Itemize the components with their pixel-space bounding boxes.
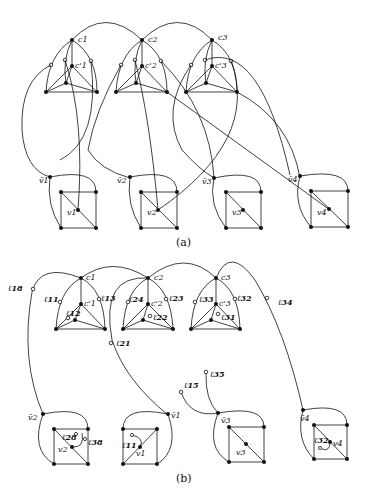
label-l11: ℓ11 — [44, 294, 59, 304]
label-l31: ℓ31 — [221, 312, 236, 322]
variable-gadget-1: v̄1 v1 — [39, 175, 98, 230]
label-b-v3: v3 — [236, 448, 246, 457]
variable-gadget-b3: v̄3 v3 — [213, 411, 266, 464]
variable-gadget-3: v̄3 v3 — [202, 175, 263, 230]
label-b-c3-prime: c'3 — [219, 299, 231, 308]
label-v1: v1 — [67, 208, 77, 217]
label-l34: ℓ34 — [278, 297, 293, 307]
label-l22: ℓ22 — [153, 312, 168, 322]
label-l23: ℓ23 — [169, 293, 184, 303]
label-c3-prime: c'3 — [215, 61, 227, 70]
label-v4-bar: v̄4 — [288, 175, 298, 184]
label-c3: c3 — [218, 33, 228, 42]
variable-gadget-b4: v̄4 v4 ℓ32 — [300, 408, 349, 461]
label-v3-bar: v̄3 — [202, 177, 212, 186]
label-l15: ℓ15 — [184, 380, 199, 390]
clause-gadget-b2: c2 c'2 ℓ24 ℓ23 ℓ22 — [121, 273, 184, 331]
label-b-v4: v4 — [333, 439, 343, 448]
figure: c1 c'1 c2 c'2 c3 c'3 — [0, 0, 368, 498]
label-l32: ℓ32 — [237, 293, 252, 303]
label-l24: ℓ24 — [129, 294, 144, 304]
label-l12: ℓ12 — [66, 308, 81, 318]
label-b-v3-bar: v̄3 — [221, 416, 231, 425]
variable-gadget-4: v̄4 v4 — [288, 174, 350, 229]
label-b-v2-bar: v̄2 — [28, 413, 38, 422]
label-b-c3: c3 — [221, 273, 231, 282]
clause-gadget-b3: c3 c'3 ℓ33 ℓ32 ℓ31 — [189, 273, 252, 331]
label-l38: ℓ38 — [88, 437, 103, 447]
label-b-c2: c2 — [154, 273, 164, 282]
label-c2: c2 — [148, 35, 158, 44]
label-l35: ℓ35 — [210, 369, 225, 379]
variable-gadget-b2: v̄2 v2 ℓ28 ℓ38 — [28, 412, 103, 466]
label-c2-prime: c'2 — [145, 61, 157, 70]
label-v4: v4 — [317, 208, 327, 217]
panel-b: c1 c'1 ℓ11 ℓ13 ℓ12 c2 c'2 ℓ24 ℓ23 ℓ22 c3… — [8, 262, 349, 485]
label-b-c2-prime: c'2 — [151, 299, 163, 308]
label-l11-b: ℓ11 — [122, 440, 137, 450]
label-l32-b: ℓ32 — [314, 435, 329, 445]
panel-a: c1 c'1 c2 c'2 c3 c'3 — [22, 23, 350, 250]
caption-a: (a) — [176, 236, 191, 249]
label-b-v1: v1 — [136, 449, 146, 458]
label-v2-bar: v̄2 — [117, 176, 127, 185]
label-v3: v3 — [232, 208, 242, 217]
variable-gadget-b1: v̄1 v1 ℓ11 — [121, 411, 181, 466]
label-b-c1-prime: c'1 — [84, 299, 96, 308]
label-b-c1: c1 — [86, 273, 96, 282]
clause-gadget-3: c3 c'3 — [184, 33, 239, 94]
label-l33: ℓ33 — [199, 294, 214, 304]
label-l21: ℓ21 — [116, 338, 131, 348]
label-l28: ℓ28 — [62, 432, 77, 442]
label-v1-bar: v̄1 — [39, 176, 49, 185]
label-b-v2: v2 — [58, 445, 68, 454]
caption-b: (b) — [176, 472, 192, 485]
clause-gadget-2: c2 c'2 — [114, 35, 169, 94]
label-b-v4-bar: v̄4 — [300, 414, 310, 423]
label-v2: v2 — [147, 208, 157, 217]
label-l18: ℓ18 — [8, 283, 23, 293]
label-b-v1-bar: v̄1 — [171, 411, 181, 420]
clause-gadget-b1: c1 c'1 ℓ11 ℓ13 ℓ12 — [44, 273, 116, 331]
label-c1: c1 — [78, 35, 88, 44]
label-c1-prime: c'1 — [75, 61, 87, 70]
variable-gadget-2: v̄2 v2 — [117, 175, 179, 230]
